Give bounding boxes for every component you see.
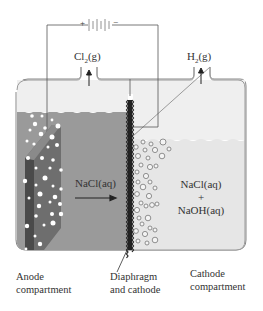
h2-gas-label: H2(g) (187, 50, 211, 68)
anode-solution-label: NaCl(aq) (75, 177, 116, 190)
battery-negative-label: − (113, 16, 118, 29)
diaphragm-pointer (117, 248, 128, 272)
cathode-solution-label: NaCl(aq) + NaOH(aq) (168, 178, 234, 217)
battery-icon (89, 19, 109, 31)
cl2-gas-label: Cl2(g) (74, 50, 101, 68)
battery-positive-label: + (80, 17, 85, 30)
diaphragm-cathode-label: Diaphragm and cathode (110, 270, 160, 296)
anode-compartment-label: Anode compartment (16, 270, 71, 296)
electrolysis-cell-diagram (0, 0, 263, 311)
cathode-compartment-label: Cathode compartment (190, 267, 245, 293)
